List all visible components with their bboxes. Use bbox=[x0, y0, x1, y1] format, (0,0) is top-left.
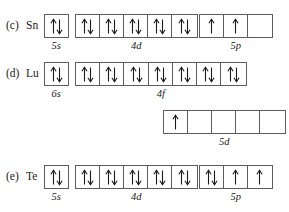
orbital-group bbox=[44, 165, 69, 189]
orbital-occupancy bbox=[178, 63, 191, 85]
orbital-box bbox=[248, 15, 272, 37]
paired-electron-arrows-icon bbox=[153, 169, 166, 186]
subshell-label: 5s bbox=[44, 41, 69, 52]
orbital-occupancy bbox=[232, 166, 239, 188]
orbital-occupancy bbox=[153, 166, 166, 188]
paired-electron-arrows-icon bbox=[130, 66, 143, 83]
orbital-box bbox=[148, 166, 172, 188]
paired-electron-arrows-icon bbox=[81, 66, 94, 83]
subshell-label: 4d bbox=[75, 192, 198, 203]
orbital-box bbox=[173, 63, 197, 85]
orbital-box bbox=[100, 15, 124, 37]
subshell-label: 5d bbox=[163, 137, 286, 148]
subshell-label: 5p bbox=[199, 192, 273, 203]
orbital-occupancy bbox=[153, 15, 166, 37]
single-electron-arrow-icon bbox=[208, 18, 215, 35]
orbital-occupancy bbox=[208, 15, 215, 37]
orbital-occupancy bbox=[227, 63, 240, 85]
orbital-occupancy bbox=[178, 166, 191, 188]
orbital-box bbox=[197, 63, 221, 85]
orbital-diagram: (c)Sn5s4d5p(d)Lu6s4f5d(e)Te5s4d5p bbox=[0, 0, 289, 212]
orbital-box bbox=[100, 63, 124, 85]
paired-electron-arrows-icon bbox=[105, 66, 118, 83]
subshell-label: 5p bbox=[199, 41, 273, 52]
orbital-occupancy bbox=[105, 166, 118, 188]
paired-electron-arrows-icon bbox=[178, 18, 191, 35]
single-electron-arrow-icon bbox=[256, 169, 263, 186]
orbital-box bbox=[124, 63, 148, 85]
row-part-letter: (c) bbox=[6, 20, 19, 32]
orbital-box bbox=[200, 15, 224, 37]
orbital-occupancy bbox=[50, 15, 63, 37]
orbital-group bbox=[75, 14, 198, 38]
paired-electron-arrows-icon bbox=[129, 169, 142, 186]
orbital-box bbox=[172, 15, 196, 37]
paired-electron-arrows-icon bbox=[227, 66, 240, 83]
orbital-box bbox=[149, 63, 173, 85]
orbital-occupancy bbox=[50, 63, 63, 85]
orbital-box bbox=[45, 63, 68, 85]
orbital-box bbox=[212, 111, 236, 133]
orbital-occupancy bbox=[105, 63, 118, 85]
orbital-occupancy bbox=[81, 15, 94, 37]
paired-electron-arrows-icon bbox=[105, 169, 118, 186]
paired-electron-arrows-icon bbox=[205, 169, 218, 186]
orbital-group bbox=[75, 165, 198, 189]
subshell-label: 6s bbox=[44, 89, 69, 100]
orbital-box bbox=[45, 15, 68, 37]
orbital-box bbox=[100, 166, 124, 188]
orbital-box bbox=[148, 15, 172, 37]
orbital-box bbox=[124, 15, 148, 37]
orbital-box bbox=[124, 166, 148, 188]
paired-electron-arrows-icon bbox=[50, 169, 63, 186]
orbital-box bbox=[200, 166, 224, 188]
subshell-label: 5s bbox=[44, 192, 69, 203]
orbital-box bbox=[76, 15, 100, 37]
paired-electron-arrows-icon bbox=[50, 66, 63, 83]
orbital-occupancy bbox=[256, 166, 263, 188]
orbital-box bbox=[224, 15, 248, 37]
single-electron-arrow-icon bbox=[232, 18, 239, 35]
orbital-box bbox=[172, 166, 196, 188]
paired-electron-arrows-icon bbox=[202, 66, 215, 83]
orbital-box bbox=[248, 166, 272, 188]
orbital-occupancy bbox=[129, 15, 142, 37]
orbital-box bbox=[221, 63, 245, 85]
paired-electron-arrows-icon bbox=[129, 18, 142, 35]
orbital-group bbox=[75, 62, 247, 86]
orbital-group bbox=[199, 14, 273, 38]
paired-electron-arrows-icon bbox=[178, 66, 191, 83]
orbital-occupancy bbox=[130, 63, 143, 85]
paired-electron-arrows-icon bbox=[105, 18, 118, 35]
orbital-occupancy bbox=[50, 166, 63, 188]
element-symbol: Sn bbox=[26, 20, 38, 32]
orbital-box bbox=[76, 63, 100, 85]
single-electron-arrow-icon bbox=[232, 169, 239, 186]
element-symbol: Lu bbox=[26, 68, 39, 80]
orbital-occupancy bbox=[232, 15, 239, 37]
orbital-group bbox=[44, 14, 69, 38]
paired-electron-arrows-icon bbox=[153, 18, 166, 35]
paired-electron-arrows-icon bbox=[154, 66, 167, 83]
orbital-occupancy bbox=[205, 166, 218, 188]
orbital-occupancy bbox=[81, 166, 94, 188]
orbital-occupancy bbox=[129, 166, 142, 188]
row-part-letter: (d) bbox=[6, 68, 19, 80]
row-part-letter: (e) bbox=[6, 171, 19, 183]
orbital-occupancy bbox=[172, 111, 179, 133]
subshell-label: 4d bbox=[75, 41, 198, 52]
orbital-box bbox=[76, 166, 100, 188]
orbital-group bbox=[44, 62, 69, 86]
orbital-box bbox=[224, 166, 248, 188]
orbital-box bbox=[45, 166, 68, 188]
orbital-group bbox=[199, 165, 273, 189]
orbital-occupancy bbox=[81, 63, 94, 85]
orbital-occupancy bbox=[202, 63, 215, 85]
orbital-occupancy bbox=[178, 15, 191, 37]
orbital-box bbox=[236, 111, 260, 133]
paired-electron-arrows-icon bbox=[178, 169, 191, 186]
element-symbol: Te bbox=[26, 171, 37, 183]
paired-electron-arrows-icon bbox=[81, 169, 94, 186]
orbital-box bbox=[164, 111, 188, 133]
orbital-box bbox=[260, 111, 284, 133]
